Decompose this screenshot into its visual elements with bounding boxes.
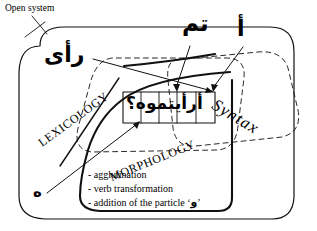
diagram-canvas: Open system رأى تم أ ه أرأيتموه؟ LEXICOL… — [0, 0, 317, 231]
open-system-leader — [32, 16, 47, 34]
list-item: - addition of the particle ‘و’ — [88, 196, 201, 210]
list-item: - verb transformation — [88, 182, 201, 196]
arrowhead-hu — [133, 121, 140, 129]
connector-tamma — [176, 46, 190, 88]
arabic-pronoun-hu: ه — [33, 185, 42, 200]
morphology-process-list: - agglutination - verb transformation - … — [88, 168, 201, 210]
arrowhead-raa — [205, 87, 213, 93]
arabic-word-raa: رأى — [44, 44, 84, 66]
phrase-box-text: أرأيتموه؟ — [126, 95, 203, 112]
arabic-letter-alif: أ — [237, 18, 245, 40]
list-item: - agglutination — [88, 168, 201, 182]
quote-close: ’ — [197, 197, 200, 208]
list-item-label: - addition of the particle — [88, 197, 187, 208]
arrowhead-tamma — [173, 84, 180, 92]
open-system-label: Open system — [5, 4, 54, 14]
arabic-word-tamma: تم — [182, 12, 209, 35]
open-system-leader-tick — [25, 22, 45, 37]
connector-alif — [213, 47, 243, 88]
